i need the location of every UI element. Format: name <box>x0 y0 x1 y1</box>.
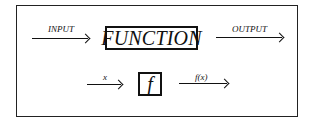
fx-label: f(x) <box>195 72 208 82</box>
x-label: x <box>103 72 107 82</box>
fx-arrow <box>179 83 227 84</box>
output-arrow <box>216 37 282 38</box>
function-box: FUNCTION <box>105 26 198 50</box>
f-box: f <box>138 72 162 96</box>
function-label: FUNCTION <box>101 27 202 50</box>
output-label: OUTPUT <box>232 24 267 34</box>
input-label: INPUT <box>48 24 74 34</box>
diagram-frame <box>16 5 298 117</box>
input-arrow <box>32 38 88 39</box>
f-label: f <box>147 73 153 96</box>
x-arrow <box>87 84 121 85</box>
